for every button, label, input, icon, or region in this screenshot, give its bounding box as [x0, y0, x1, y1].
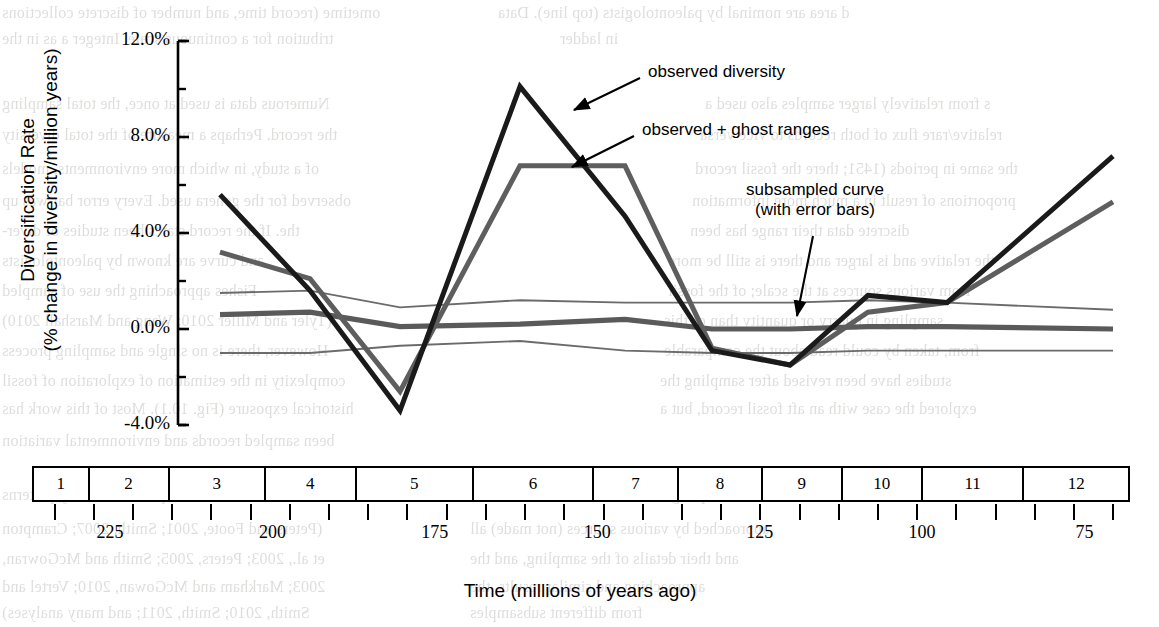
time-bin-3: 3	[170, 468, 266, 500]
time-bin-10: 10	[843, 468, 923, 500]
ruler-label-225: 225	[80, 522, 140, 543]
ruler-tick	[54, 504, 56, 520]
ruler-tick	[799, 504, 801, 520]
time-bin-2: 2	[90, 468, 170, 500]
ruler-tick	[132, 504, 134, 520]
time-bin-8: 8	[679, 468, 762, 500]
ruler-tick	[328, 504, 330, 520]
ruler-tick	[916, 504, 918, 520]
time-bin-11: 11	[923, 468, 1024, 500]
ruler-tick	[289, 504, 291, 520]
ruler-tick	[995, 504, 997, 520]
arrow-observed-ghost-ranges	[572, 136, 634, 167]
time-bin-7: 7	[594, 468, 679, 500]
annotation-observed-ghost-ranges: observed + ghost ranges	[642, 120, 830, 140]
ruler-tick	[93, 504, 95, 520]
ruler-tick	[877, 504, 879, 520]
annotation-subsampled-curve: subsampled curve (with error bars)	[700, 180, 930, 220]
ruler-tick	[720, 504, 722, 520]
ruler-label-75: 75	[1055, 522, 1115, 543]
ruler-label-175: 175	[405, 522, 465, 543]
ruler-tick	[838, 504, 840, 520]
ruler-label-125: 125	[730, 522, 790, 543]
figure-diversification-rate: Diversification Rate (% change in divers…	[0, 0, 1159, 627]
time-scale-bar: 123456789101112	[32, 466, 1130, 502]
time-bin-5: 5	[357, 468, 475, 500]
annotation-observed-diversity: observed diversity	[648, 62, 785, 82]
ruler-label-150: 150	[567, 522, 627, 543]
ruler-tick	[446, 504, 448, 520]
ruler-tick	[759, 504, 761, 520]
series-subsampled-curve	[220, 312, 1113, 329]
ruler-tick	[250, 504, 252, 520]
ruler-tick	[642, 504, 644, 520]
time-bin-9: 9	[763, 468, 843, 500]
ruler-tick	[1073, 504, 1075, 520]
ruler-tick	[406, 504, 408, 520]
ruler-tick	[1034, 504, 1036, 520]
ruler-tick	[485, 504, 487, 520]
ruler-tick	[955, 504, 957, 520]
arrow-subsampled-curve	[797, 236, 813, 316]
ruler-tick	[563, 504, 565, 520]
ruler-tick	[1112, 504, 1114, 520]
time-bin-12: 12	[1024, 468, 1128, 500]
ruler-label-200: 200	[242, 522, 302, 543]
time-bin-1: 1	[34, 468, 90, 500]
plot-area	[0, 0, 1159, 470]
series-subsampled-upper-error	[220, 291, 1113, 310]
ruler-tick	[210, 504, 212, 520]
time-bin-4: 4	[266, 468, 357, 500]
ruler-tick	[524, 504, 526, 520]
annotation-subsampled-line2: (with error bars)	[755, 200, 875, 219]
x-axis-title: Time (millions of years ago)	[380, 580, 780, 602]
annotation-subsampled-line1: subsampled curve	[746, 180, 884, 199]
ruler-tick	[603, 504, 605, 520]
ruler-tick	[171, 504, 173, 520]
ruler-tick	[367, 504, 369, 520]
ruler-label-100: 100	[892, 522, 952, 543]
ruler-tick	[681, 504, 683, 520]
arrow-observed-diversity	[574, 78, 640, 110]
time-bin-6: 6	[474, 468, 594, 500]
